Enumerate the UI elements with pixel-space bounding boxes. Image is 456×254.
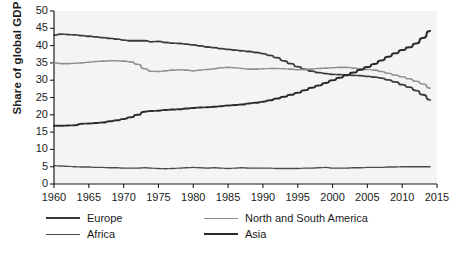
legend-item-north-and-south-america[interactable]: North and South America bbox=[204, 212, 446, 224]
legend-item-asia[interactable]: Asia bbox=[204, 228, 446, 240]
legend-swatch-north-and-south-america bbox=[204, 218, 238, 219]
legend-label-north-and-south-america: North and South America bbox=[245, 212, 368, 224]
legend-item-africa[interactable]: Africa bbox=[46, 228, 194, 240]
legend-swatch-europe bbox=[46, 217, 80, 219]
legend-item-europe[interactable]: Europe bbox=[46, 212, 194, 224]
chart-legend: Europe North and South America Africa As… bbox=[46, 210, 446, 242]
legend-label-africa: Africa bbox=[87, 228, 115, 240]
legend-label-asia: Asia bbox=[245, 228, 266, 240]
legend-swatch-asia bbox=[204, 233, 238, 235]
plot-background bbox=[54, 11, 437, 184]
legend-swatch-africa bbox=[46, 234, 80, 235]
chart-figure: Share of global GDP 50454035302520151050… bbox=[0, 0, 456, 254]
legend-label-europe: Europe bbox=[87, 212, 122, 224]
